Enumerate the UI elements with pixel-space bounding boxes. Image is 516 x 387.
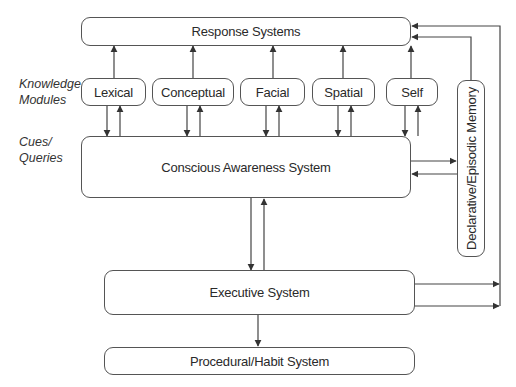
declarative-memory-node: Declarative/Episodic Memory	[457, 80, 485, 257]
procedural-habit-node: Procedural/Habit System	[104, 347, 415, 375]
conscious-awareness-node: Conscious Awareness System	[81, 136, 411, 198]
module-conceptual: Conceptual	[152, 78, 234, 106]
arrow-memory-to-response	[412, 37, 471, 80]
module-lexical: Lexical	[81, 78, 146, 106]
arrow-executive-to-response	[412, 26, 500, 306]
module-facial: Facial	[240, 78, 305, 106]
cues-queries-label: Cues/ Queries	[19, 134, 63, 166]
executive-system-node: Executive System	[104, 270, 415, 315]
module-spatial: Spatial	[312, 78, 375, 106]
response-systems-node: Response Systems	[81, 17, 411, 46]
module-self: Self	[386, 78, 438, 106]
knowledge-modules-label: Knowledge Modules	[19, 76, 81, 108]
declarative-memory-label: Declarative/Episodic Memory	[464, 87, 479, 250]
